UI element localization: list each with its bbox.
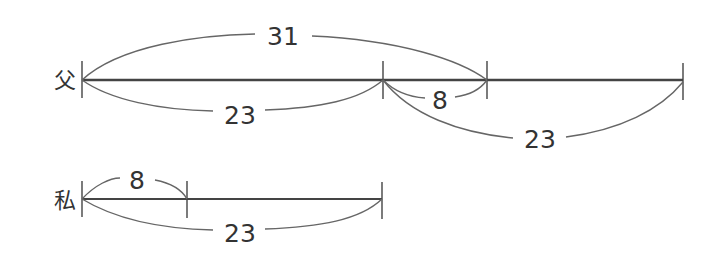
me-brace-8-left	[82, 178, 120, 199]
me-brace-23-left	[82, 199, 213, 230]
age-diagram: 父 私 31 23 8 23 8 23	[0, 0, 721, 260]
father-brace-23a-left	[82, 80, 213, 111]
father-brace-31-label: 31	[267, 22, 299, 51]
father-brace-8-label: 8	[432, 86, 448, 115]
father-brace-23a-right	[265, 80, 383, 110]
father-label: 父	[54, 68, 76, 93]
father-brace-31-left	[82, 34, 255, 80]
me-label: 私	[54, 188, 76, 213]
father-brace-8-left	[383, 80, 425, 98]
me-brace-8-right	[155, 180, 187, 199]
me-brace-23-label: 23	[224, 219, 256, 248]
father-brace-23a-label: 23	[224, 101, 256, 130]
father-brace-8-right	[455, 80, 487, 97]
me-brace-23-right	[265, 199, 382, 229]
father-brace-23b-label: 23	[524, 125, 556, 154]
father-brace-23b-left	[383, 80, 513, 138]
father-brace-31-right	[312, 36, 487, 80]
father-brace-23b-right	[566, 82, 683, 137]
me-brace-8-label: 8	[129, 166, 145, 195]
